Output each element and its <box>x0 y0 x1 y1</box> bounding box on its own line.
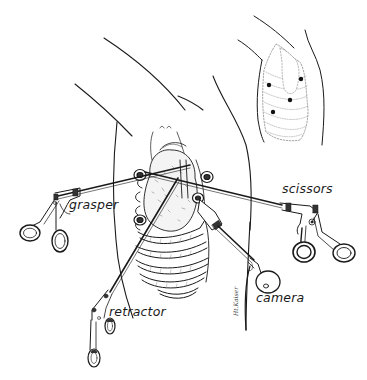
label-retractor: retractor <box>109 306 166 319</box>
inset-port-placement <box>238 16 324 145</box>
surgical-illustration: grasper scissors retractor camera Ht.Kai… <box>0 0 367 380</box>
label-scissors: scissors <box>282 183 333 196</box>
label-camera: camera <box>256 292 304 305</box>
label-grasper: grasper <box>69 199 118 212</box>
camera-instrument <box>198 200 280 330</box>
artist-signature: Ht.Kaiser <box>232 287 239 316</box>
